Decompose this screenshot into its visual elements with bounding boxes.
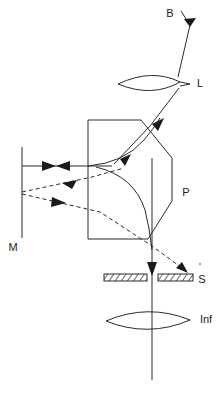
label-lens-inf: Inf (200, 313, 213, 325)
axis-ray-arrowhead-right-icon (42, 161, 56, 171)
lens-inf-group (106, 312, 190, 330)
prism-lower-arc (96, 167, 152, 250)
label-slit-s: S (198, 273, 205, 285)
slit-jaw-left (104, 274, 147, 281)
slit-reference-dot (199, 263, 201, 265)
slit-jaw-right (158, 274, 193, 281)
label-prism-p: P (182, 186, 189, 198)
vertical-ray-arrowhead-icon (147, 262, 157, 276)
prism-group (88, 118, 172, 250)
label-lens-l: L (197, 77, 203, 89)
beam-to-lens-line (178, 25, 190, 77)
optical-diagram-canvas: B L P M S Inf (0, 0, 222, 394)
vertical-ray-group (147, 158, 157, 380)
lens-l-shape (118, 75, 180, 90)
lens-l-right-tip (180, 82, 190, 86)
refracted-ray-arrowhead-icon (152, 118, 164, 131)
dashed-ray-upper-arrowhead-icon (62, 180, 77, 189)
dashed-ray-upper (22, 168, 124, 192)
dashed-ray-lower (22, 194, 186, 271)
incident-beam-group (178, 11, 196, 77)
axis-ray-arrowhead-left-icon (56, 161, 70, 171)
label-beam: B (166, 7, 173, 19)
lens-inf-shape (106, 312, 190, 330)
dashed-rays-group (22, 168, 188, 273)
axis-ray-group (22, 161, 112, 171)
label-mirror-m: M (8, 241, 17, 253)
optical-diagram: B L P M S Inf (0, 0, 222, 394)
prism-outline (88, 120, 172, 239)
dashed-ray-lower-arrowhead-icon (51, 197, 66, 207)
dashed-ray-slit-arrowhead-icon (176, 262, 188, 273)
